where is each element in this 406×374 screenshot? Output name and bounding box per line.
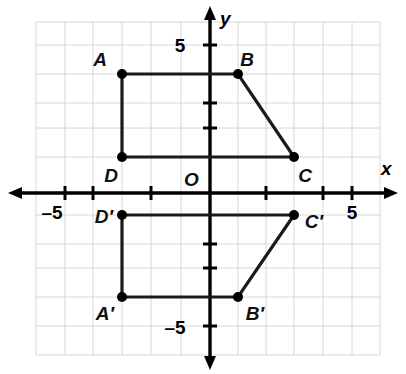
x-axis-label: x <box>380 158 393 179</box>
vertex-a-prime <box>117 292 127 302</box>
vertex-d <box>117 152 127 162</box>
y-axis-label: y <box>219 8 232 29</box>
vertex-label-a-prime: A′ <box>95 303 116 324</box>
vertex-c <box>289 152 299 162</box>
vertex-d-prime <box>117 210 127 220</box>
vertex-label-d-prime: D′ <box>95 206 115 227</box>
x-tick-label-neg5: –5 <box>41 202 63 223</box>
coordinate-plane-figure: x y 5 –5 –5 5 O A B C D A′ B′ C′ D′ <box>0 0 406 374</box>
y-tick-label-5: 5 <box>175 35 186 56</box>
origin-label: O <box>184 169 199 190</box>
canvas-background <box>0 0 406 374</box>
vertex-label-d: D <box>104 165 118 186</box>
vertex-c-prime <box>289 210 299 220</box>
vertex-label-c-prime: C′ <box>305 211 325 232</box>
vertex-b <box>233 69 243 79</box>
vertex-b-prime <box>233 292 243 302</box>
y-tick-label-neg5: –5 <box>164 317 186 338</box>
vertex-label-c: C <box>298 165 312 186</box>
vertex-label-b-prime: B′ <box>246 303 266 324</box>
vertex-label-b: B <box>240 49 254 70</box>
graph-svg: x y 5 –5 –5 5 O A B C D A′ B′ C′ D′ <box>0 0 406 374</box>
vertex-label-a: A <box>92 49 107 70</box>
x-tick-label-5: 5 <box>347 202 358 223</box>
vertex-a <box>117 69 127 79</box>
